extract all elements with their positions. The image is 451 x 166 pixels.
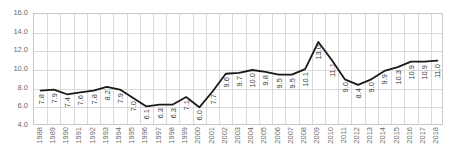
data-point-label: 7.9 [116,93,125,103]
data-point-label: 11.0 [433,64,442,78]
data-point-label: 8.2 [103,90,112,100]
x-axis-tick-label: 2005 [259,127,269,144]
data-point-label: 9.5 [288,78,297,88]
x-axis-tick-label: 2012 [352,127,362,144]
data-point-label: 7.9 [50,93,59,103]
x-axis-tick-label: 2007 [286,127,296,144]
data-point-label: 9.8 [261,75,270,85]
data-point-label: 10.9 [420,65,429,80]
x-axis-tick-label: 2015 [392,127,402,144]
x-axis-tick-label: 1998 [167,127,177,144]
data-point-label: 10.1 [301,72,310,87]
data-point-label: 11.1 [328,63,337,77]
x-axis-tick-label: 2004 [246,127,256,144]
data-point-label: 10.9 [407,65,416,80]
x-axis-tick-label: 1993 [101,127,111,144]
data-point-label: 6.3 [156,108,165,118]
x-axis-tick-label: 2009 [312,127,322,144]
x-axis-tick-label: 2010 [326,127,336,144]
data-point-label: 9.0 [341,82,350,92]
data-point-label: 6.0 [195,110,204,120]
data-point-label: 10.3 [394,70,403,85]
data-point-label: 7.7 [209,94,218,104]
x-axis-tick-label: 1999 [180,127,190,144]
x-axis-tick-label: 2014 [378,127,388,144]
x-axis-tick-label: 1994 [114,127,124,144]
y-axis-tick-label: 10.0 [0,65,28,73]
y-axis-tick-label: 12.0 [0,46,28,54]
x-axis-tick-label: 1989 [48,127,58,144]
data-point-label: 9.5 [275,78,284,88]
x-axis-tick-label: 1995 [127,127,137,144]
x-axis-tick-label: 2006 [273,127,283,144]
data-point-label: 7.8 [90,94,99,104]
x-axis-tick-label: 1992 [88,127,98,144]
x-axis-tick-label: 2018 [431,127,441,144]
series-polyline [41,42,438,107]
y-axis-tick-label: 14.0 [0,28,28,36]
data-point-label: 8.4 [354,88,363,98]
x-axis-tick-label: 2002 [220,127,230,144]
y-axis-tick-label: 4.0 [0,121,28,129]
y-axis-labels: 4.06.08.010.012.014.016.0 [0,0,30,166]
data-point-label: 7.1 [182,100,191,110]
data-point-label: 7.8 [37,94,46,104]
x-axis-tick-label: 2000 [193,127,203,144]
x-axis-tick-label: 1990 [61,127,71,144]
data-point-label: 7.0 [129,101,138,111]
y-axis-tick-label: 6.0 [0,102,28,110]
y-axis-tick-label: 16.0 [0,9,28,17]
x-axis-tick-label: 1996 [140,127,150,144]
x-axis-tick-label: 1997 [154,127,164,144]
x-axis-tick-label: 1991 [74,127,84,144]
data-series-line [34,14,444,126]
data-point-label: 7.4 [63,97,72,107]
data-point-label: 9.0 [367,82,376,92]
data-point-label: 13.0 [314,45,323,60]
x-axis-tick-label: 2016 [405,127,415,144]
data-point-label: 9.7 [235,76,244,86]
data-point-label: 9.6 [222,77,231,87]
x-axis-tick-label: 1988 [35,127,45,144]
line-chart: 4.06.08.010.012.014.016.0 7.87.97.47.67.… [0,0,451,166]
plot-area: 7.87.97.47.67.88.27.97.06.16.36.37.16.07… [33,13,443,125]
x-axis-tick-label: 2011 [339,127,349,143]
data-point-label: 7.6 [76,95,85,105]
data-point-label: 6.1 [142,109,151,119]
data-point-label: 6.3 [169,108,178,118]
x-axis-tick-label: 2013 [365,127,375,144]
data-point-label: 10.0 [248,73,257,88]
x-axis-labels: 1988198919901991199219931994199519961997… [33,127,443,166]
x-axis-tick-label: 2008 [299,127,309,144]
x-axis-tick-label: 2017 [418,127,428,144]
x-axis-tick-label: 2001 [207,127,217,144]
x-axis-tick-label: 2003 [233,127,243,144]
y-axis-tick-label: 8.0 [0,84,28,92]
data-point-label: 9.9 [380,74,389,84]
